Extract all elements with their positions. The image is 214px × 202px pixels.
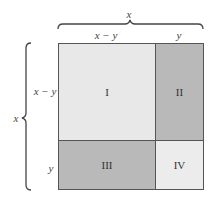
left-brace xyxy=(22,43,31,190)
region-i-label: I xyxy=(105,86,109,98)
column-label-x-minus-y: x − y xyxy=(95,29,118,41)
column-label-y: y xyxy=(177,29,182,41)
region-iv-label: IV xyxy=(174,159,186,171)
row-label-x-minus-y: x − y xyxy=(34,85,57,97)
region-iii: III xyxy=(58,140,156,190)
region-iii-label: III xyxy=(102,159,113,171)
top-brace-label: x xyxy=(127,8,132,20)
region-ii: II xyxy=(155,43,204,141)
row-label-y: y xyxy=(49,162,54,174)
left-brace-label: x xyxy=(14,112,19,124)
region-i: I xyxy=(58,43,156,141)
region-ii-label: II xyxy=(176,86,183,98)
top-brace xyxy=(58,20,203,29)
region-iv: IV xyxy=(155,140,204,190)
